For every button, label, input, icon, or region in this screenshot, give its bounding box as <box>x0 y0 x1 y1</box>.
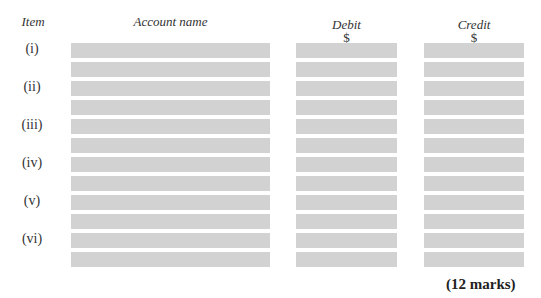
debit-field[interactable] <box>296 138 397 153</box>
account-name-field[interactable] <box>71 138 270 153</box>
credit-field[interactable] <box>424 176 524 191</box>
debit-field[interactable] <box>296 81 397 96</box>
credit-field[interactable] <box>424 62 524 77</box>
credit-field[interactable] <box>424 81 524 96</box>
account-name-field[interactable] <box>71 233 270 248</box>
debit-field[interactable] <box>296 100 397 115</box>
credit-field[interactable] <box>424 195 524 210</box>
account-name-field[interactable] <box>71 81 270 96</box>
account-name-field[interactable] <box>71 195 270 210</box>
debit-field[interactable] <box>296 157 397 172</box>
credit-field[interactable] <box>424 252 524 267</box>
account-name-field[interactable] <box>71 214 270 229</box>
credit-field[interactable] <box>424 43 524 58</box>
debit-field[interactable] <box>296 176 397 191</box>
account-name-field[interactable] <box>71 176 270 191</box>
debit-field[interactable] <box>296 43 397 58</box>
credit-field[interactable] <box>424 119 524 134</box>
item-label: (iv) <box>2 155 62 171</box>
item-label: (iii) <box>2 117 62 133</box>
item-label: (i) <box>2 41 62 57</box>
debit-field[interactable] <box>296 119 397 134</box>
account-name-field[interactable] <box>71 119 270 134</box>
account-name-field[interactable] <box>71 157 270 172</box>
item-label: (v) <box>2 193 62 209</box>
account-name-field[interactable] <box>71 100 270 115</box>
account-name-field[interactable] <box>71 43 270 58</box>
header-item: Item <box>8 14 58 30</box>
debit-field[interactable] <box>296 214 397 229</box>
debit-field[interactable] <box>296 195 397 210</box>
debit-field[interactable] <box>296 252 397 267</box>
item-label: (vi) <box>2 231 62 247</box>
item-label: (ii) <box>2 79 62 95</box>
debit-field[interactable] <box>296 233 397 248</box>
account-name-field[interactable] <box>71 62 270 77</box>
credit-field[interactable] <box>424 157 524 172</box>
marks-label: (12 marks) <box>446 276 516 293</box>
debit-field[interactable] <box>296 62 397 77</box>
credit-field[interactable] <box>424 100 524 115</box>
credit-field[interactable] <box>424 138 524 153</box>
credit-field[interactable] <box>424 233 524 248</box>
credit-field[interactable] <box>424 214 524 229</box>
header-account-name: Account name <box>71 14 270 30</box>
account-name-field[interactable] <box>71 252 270 267</box>
